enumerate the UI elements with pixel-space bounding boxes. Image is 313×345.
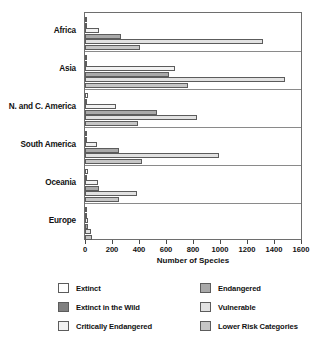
- bar: [85, 17, 87, 22]
- legend-swatch: [58, 321, 69, 331]
- bar: [85, 110, 157, 115]
- x-axis-tick: [274, 240, 275, 244]
- x-axis-tick-label: 400: [133, 245, 146, 254]
- category-label: Europe: [49, 216, 76, 225]
- x-axis-tick-label: 200: [106, 245, 119, 254]
- bar: [85, 197, 119, 202]
- category-label: Africa: [54, 26, 76, 35]
- bar: [85, 61, 87, 66]
- x-axis-tick: [85, 240, 86, 244]
- bar: [85, 207, 87, 212]
- bar: [85, 131, 87, 136]
- bar-group: [85, 51, 301, 89]
- x-axis-tick-label: 1600: [293, 245, 310, 254]
- x-axis-tick-label: 1000: [212, 245, 229, 254]
- x-axis-tick: [247, 240, 248, 244]
- bar: [85, 72, 169, 77]
- bar: [85, 99, 87, 104]
- legend-item[interactable]: Extinct in the Wild: [58, 302, 140, 312]
- bar: [85, 39, 263, 44]
- category-label: Oceania: [45, 178, 76, 187]
- bar: [85, 180, 98, 185]
- bar-group: [85, 203, 301, 241]
- bar-group: [85, 13, 301, 51]
- category-label: N. and C. America: [9, 102, 76, 111]
- bar: [85, 115, 197, 120]
- bar: [85, 66, 175, 71]
- x-axis-tick: [166, 240, 167, 244]
- category-label: Asia: [59, 64, 76, 73]
- bar: [85, 213, 87, 218]
- legend-item[interactable]: Endangered: [200, 283, 261, 293]
- bar: [85, 153, 219, 158]
- bar: [85, 218, 88, 223]
- bar-group: [85, 165, 301, 203]
- bar: [85, 169, 88, 174]
- legend-item[interactable]: Extinct: [58, 283, 101, 293]
- category-label: South America: [20, 140, 76, 149]
- legend-label: Critically Endangered: [76, 322, 152, 331]
- bar: [85, 83, 188, 88]
- legend-item[interactable]: Lower Risk Categories: [200, 321, 298, 331]
- x-axis-tick-label: 1200: [239, 245, 256, 254]
- bar-group: [85, 127, 301, 165]
- bar: [85, 23, 87, 28]
- bar: [85, 229, 91, 234]
- bar: [85, 137, 87, 142]
- legend-swatch: [58, 283, 69, 293]
- bar: [85, 191, 137, 196]
- chart-legend: ExtinctEndangeredExtinct in the WildVuln…: [58, 283, 308, 341]
- bar: [85, 186, 99, 191]
- x-axis: 02004006008001000120014001600: [84, 240, 302, 270]
- x-axis-tick-label: 600: [160, 245, 173, 254]
- bar: [85, 55, 87, 60]
- x-axis-tick: [112, 240, 113, 244]
- bar: [85, 77, 285, 82]
- bar: [85, 121, 138, 126]
- x-axis-title: Number of Species: [84, 256, 302, 265]
- bar-group: [85, 89, 301, 127]
- legend-item[interactable]: Vulnerable: [200, 302, 256, 312]
- bar: [85, 45, 140, 50]
- legend-label: Extinct: [76, 284, 101, 293]
- bar: [85, 142, 97, 147]
- legend-swatch: [58, 302, 69, 312]
- bar: [85, 93, 88, 98]
- bar: [85, 34, 121, 39]
- plot-area: [84, 12, 302, 240]
- legend-label: Endangered: [218, 284, 261, 293]
- legend-label: Vulnerable: [218, 303, 256, 312]
- x-axis-tick-label: 0: [83, 245, 87, 254]
- x-axis-tick: [220, 240, 221, 244]
- x-axis-tick: [139, 240, 140, 244]
- x-axis-tick: [193, 240, 194, 244]
- x-axis-tick-label: 800: [187, 245, 200, 254]
- bar: [85, 224, 88, 229]
- x-axis-tick-label: 1400: [266, 245, 283, 254]
- bar: [85, 175, 87, 180]
- category-axis-labels: AfricaAsiaN. and C. AmericaSouth America…: [0, 12, 80, 240]
- bar: [85, 148, 119, 153]
- legend-swatch: [200, 321, 211, 331]
- legend-swatch: [200, 302, 211, 312]
- species-threat-bar-chart: AfricaAsiaN. and C. AmericaSouth America…: [0, 0, 313, 345]
- legend-item[interactable]: Critically Endangered: [58, 321, 152, 331]
- bar: [85, 159, 142, 164]
- legend-swatch: [200, 283, 211, 293]
- x-axis-tick: [301, 240, 302, 244]
- bar: [85, 104, 116, 109]
- legend-label: Lower Risk Categories: [218, 322, 298, 331]
- bar: [85, 28, 99, 33]
- legend-label: Extinct in the Wild: [76, 303, 140, 312]
